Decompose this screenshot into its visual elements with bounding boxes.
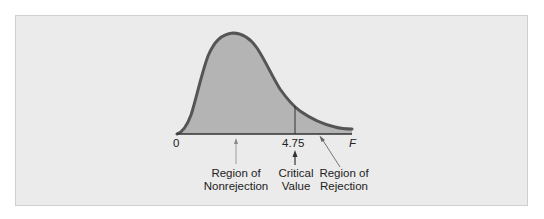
origin-label: 0 <box>173 137 179 150</box>
rejection-region-label: Region of Rejection <box>318 167 370 193</box>
critical-value-label: 4.75 <box>282 137 304 150</box>
nonrejection-label-line2: Nonrejection <box>203 180 269 193</box>
f-axis-label: F <box>349 137 356 150</box>
rejection-label-line1: Region of <box>318 167 370 180</box>
nonrejection-region-label: Region of Nonrejection <box>203 167 269 193</box>
nonrejection-arrow-icon <box>234 138 238 164</box>
nonrejection-label-line1: Region of <box>203 167 269 180</box>
critical-value-arrow-icon <box>293 150 298 165</box>
distribution-area <box>177 33 352 134</box>
f-distribution-plot <box>0 0 544 219</box>
critical-label-line2: Value <box>276 180 316 193</box>
critical-label-line1: Critical <box>276 167 316 180</box>
critical-value-annotation: Critical Value <box>276 167 316 193</box>
rejection-arrow-icon <box>320 136 341 168</box>
rejection-label-line2: Rejection <box>318 180 370 193</box>
